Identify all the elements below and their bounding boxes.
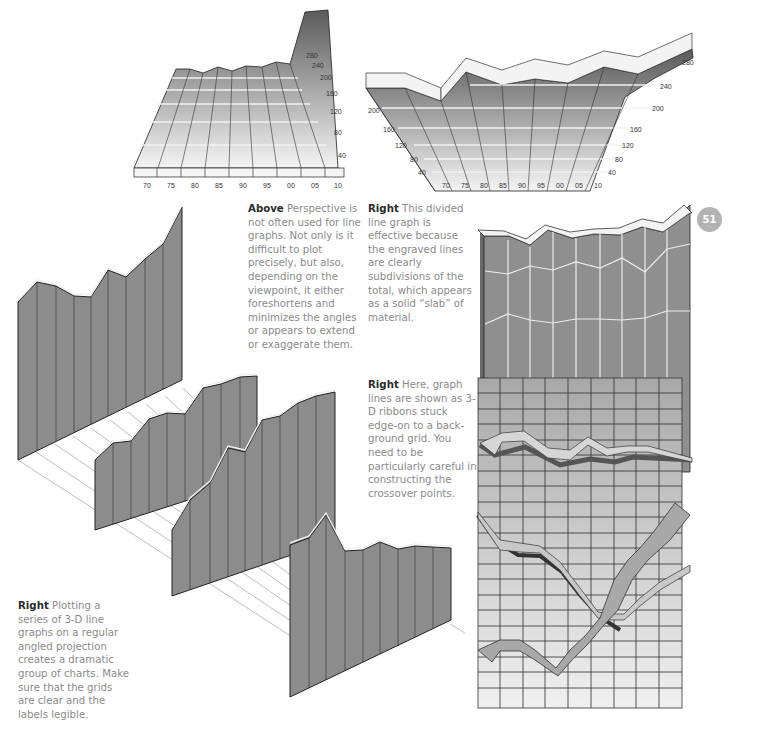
caption-text: This divided line graph is effective bec… xyxy=(368,203,472,323)
svg-text:70: 70 xyxy=(442,182,450,189)
svg-text:120: 120 xyxy=(395,142,407,149)
svg-text:40: 40 xyxy=(608,169,616,176)
svg-text:120: 120 xyxy=(330,108,342,115)
svg-text:05: 05 xyxy=(311,182,319,189)
svg-text:80: 80 xyxy=(480,182,488,189)
svg-text:75: 75 xyxy=(167,182,175,189)
svg-text:160: 160 xyxy=(383,126,395,133)
svg-text:85: 85 xyxy=(215,182,223,189)
svg-text:280: 280 xyxy=(306,52,318,59)
svg-text:80: 80 xyxy=(334,129,342,136)
svg-text:40: 40 xyxy=(418,169,426,176)
caption-lead: Above xyxy=(248,203,284,214)
caption-right-ribbons: Right Here, graph lines are shown as 3-D… xyxy=(368,378,478,500)
chart-ribbon-grid xyxy=(478,378,692,708)
svg-text:90: 90 xyxy=(239,182,247,189)
caption-text: Plotting a series of 3-D line graphs on … xyxy=(18,600,129,720)
svg-text:10: 10 xyxy=(334,182,342,189)
caption-lead: Right xyxy=(368,203,399,214)
caption-lead: Right xyxy=(368,379,399,390)
svg-text:200: 200 xyxy=(320,74,332,81)
svg-text:95: 95 xyxy=(263,182,271,189)
caption-right-series: Right Plotting a series of 3-D line grap… xyxy=(18,599,130,721)
caption-text: Here, graph lines are shown as 3-D ribbo… xyxy=(368,379,477,499)
caption-text: Perspective is not often used for line g… xyxy=(248,203,361,350)
svg-text:160: 160 xyxy=(326,90,338,97)
svg-text:240: 240 xyxy=(312,62,324,69)
chart-perspective-top-right: 707580 859095 000510 200160120 8040 4080… xyxy=(366,33,694,191)
chart-perspective-top-left: 707580 859095 000510 4080120 160200240 2… xyxy=(133,5,346,189)
caption-right-divided: Right This divided line graph is effecti… xyxy=(368,202,478,324)
caption-lead: Right xyxy=(18,600,49,611)
svg-text:120: 120 xyxy=(622,142,634,149)
svg-text:160: 160 xyxy=(630,126,642,133)
svg-text:280: 280 xyxy=(682,59,694,66)
svg-text:85: 85 xyxy=(499,182,507,189)
caption-above: Above Perspective is not often used for … xyxy=(248,202,368,352)
svg-text:90: 90 xyxy=(518,182,526,189)
svg-text:05: 05 xyxy=(575,182,583,189)
page-number-badge: 51 xyxy=(697,207,722,232)
svg-text:40: 40 xyxy=(338,152,346,159)
svg-text:80: 80 xyxy=(191,182,199,189)
svg-text:240: 240 xyxy=(660,83,672,90)
svg-text:200: 200 xyxy=(368,107,380,114)
svg-text:80: 80 xyxy=(615,156,623,163)
svg-text:70: 70 xyxy=(143,182,151,189)
svg-text:200: 200 xyxy=(652,105,664,112)
svg-text:00: 00 xyxy=(287,182,295,189)
svg-text:10: 10 xyxy=(594,182,602,189)
svg-text:75: 75 xyxy=(461,182,469,189)
svg-text:80: 80 xyxy=(410,156,418,163)
svg-text:95: 95 xyxy=(537,182,545,189)
svg-text:00: 00 xyxy=(556,182,564,189)
